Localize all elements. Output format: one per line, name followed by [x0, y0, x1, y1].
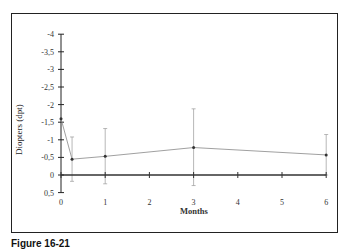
x-axis-label: Months	[180, 206, 208, 216]
x-tick-label: 4	[236, 198, 240, 207]
y-tick-label: -1,5	[41, 118, 54, 127]
y-tick-label: 0	[50, 171, 54, 180]
x-tick-label: 5	[280, 198, 284, 207]
y-axis-label: Diopters (dpt)	[14, 104, 24, 155]
data-point	[192, 146, 195, 149]
chart-plot: -4-3,5-3-2,5-2-1,5-1-0,500,50123456	[0, 0, 351, 250]
data-point	[71, 158, 74, 161]
y-tick-label: -4	[47, 30, 54, 39]
data-point	[325, 153, 328, 156]
x-tick-label: 1	[103, 198, 107, 207]
x-tick-label: 6	[324, 198, 328, 207]
x-tick-label: 2	[147, 198, 151, 207]
y-tick-label: 0,5	[44, 189, 54, 198]
data-point	[104, 155, 107, 158]
y-tick-label: -3,5	[41, 48, 54, 57]
y-tick-label: -2,5	[41, 83, 54, 92]
y-tick-label: -2	[47, 101, 54, 110]
y-tick-label: -1	[47, 136, 54, 145]
data-point	[60, 117, 63, 120]
figure-caption: Figure 16-21	[11, 238, 70, 249]
y-tick-label: -3	[47, 65, 54, 74]
y-tick-label: -0,5	[41, 153, 54, 162]
x-tick-label: 0	[59, 198, 63, 207]
